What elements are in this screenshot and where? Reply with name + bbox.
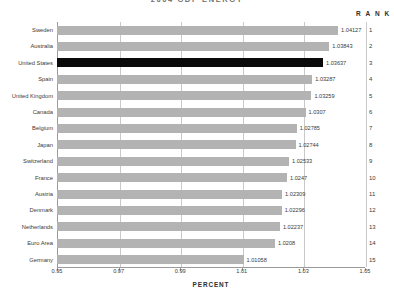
category-label: Canada bbox=[0, 104, 53, 120]
bar-value-label: 1.03259 bbox=[314, 88, 334, 104]
bar-row: Austria1.0230911 bbox=[0, 186, 394, 202]
bar-row: United Kingdom1.032595 bbox=[0, 88, 394, 104]
bar bbox=[57, 75, 312, 84]
x-axis-label: PERCENT bbox=[57, 281, 365, 288]
rank-value: 11 bbox=[369, 186, 393, 202]
category-label: Belgium bbox=[0, 120, 53, 136]
category-label: Euro Area bbox=[0, 235, 53, 251]
bar-row: United States1.036373 bbox=[0, 55, 394, 71]
bar bbox=[57, 173, 287, 182]
category-label: Japan bbox=[0, 137, 53, 153]
rank-value: 3 bbox=[369, 55, 393, 71]
bar-row: Australia1.038432 bbox=[0, 38, 394, 54]
category-label: Spain bbox=[0, 71, 53, 87]
bar-row: Netherlands1.0223713 bbox=[0, 219, 394, 235]
rank-value: 13 bbox=[369, 219, 393, 235]
x-tick-label: 0.99 bbox=[160, 268, 200, 274]
bar-row: Sweden1.041271 bbox=[0, 22, 394, 38]
x-tick-label: 1.05 bbox=[345, 268, 385, 274]
bar bbox=[57, 190, 282, 199]
bar-value-label: 1.03637 bbox=[326, 55, 346, 71]
category-label: Switzerland bbox=[0, 153, 53, 169]
bar-value-label: 1.03843 bbox=[332, 38, 352, 54]
category-label: France bbox=[0, 170, 53, 186]
category-label: Sweden bbox=[0, 22, 53, 38]
bar-row: Japan1.027448 bbox=[0, 137, 394, 153]
bar-row: Belgium1.027857 bbox=[0, 120, 394, 136]
bar-row: Germany1.0105815 bbox=[0, 252, 394, 268]
bar-value-label: 1.02296 bbox=[285, 202, 305, 218]
category-label: Denmark bbox=[0, 202, 53, 218]
bar bbox=[57, 255, 244, 264]
rank-value: 4 bbox=[369, 71, 393, 87]
bar-chart: 2004 GDP ENERGY R A N K Sweden1.041271Au… bbox=[0, 0, 394, 299]
rank-value: 2 bbox=[369, 38, 393, 54]
bar-value-label: 1.01058 bbox=[247, 252, 267, 268]
x-tick-label: 1.03 bbox=[283, 268, 323, 274]
bar-value-label: 1.03287 bbox=[315, 71, 335, 87]
bar-value-label: 1.02237 bbox=[283, 219, 303, 235]
rank-value: 8 bbox=[369, 137, 393, 153]
bar-row: France1.024710 bbox=[0, 170, 394, 186]
bar bbox=[57, 108, 306, 117]
bar bbox=[57, 239, 275, 248]
bar-row: Spain1.032874 bbox=[0, 71, 394, 87]
bar bbox=[57, 206, 282, 215]
bar-row: Euro Area1.020814 bbox=[0, 235, 394, 251]
bar-value-label: 1.0307 bbox=[309, 104, 326, 120]
bar-row: Denmark1.0229612 bbox=[0, 202, 394, 218]
rank-value: 7 bbox=[369, 120, 393, 136]
bar bbox=[57, 91, 311, 100]
bar-value-label: 1.0208 bbox=[278, 235, 295, 251]
category-label: Netherlands bbox=[0, 219, 53, 235]
x-tick-label: 0.95 bbox=[37, 268, 77, 274]
rank-value: 1 bbox=[369, 22, 393, 38]
category-label: United States bbox=[0, 55, 53, 71]
bar bbox=[57, 140, 296, 149]
rank-value: 12 bbox=[369, 202, 393, 218]
rank-value: 14 bbox=[369, 235, 393, 251]
rank-value: 6 bbox=[369, 104, 393, 120]
rank-value: 10 bbox=[369, 170, 393, 186]
x-tick-label: 0.97 bbox=[99, 268, 139, 274]
chart-title: 2004 GDP ENERGY bbox=[0, 0, 394, 4]
bar bbox=[57, 42, 329, 51]
bar-value-label: 1.02533 bbox=[292, 153, 312, 169]
rank-value: 15 bbox=[369, 252, 393, 268]
bar-value-label: 1.04127 bbox=[341, 22, 361, 38]
bar-value-label: 1.02785 bbox=[300, 120, 320, 136]
rank-value: 5 bbox=[369, 88, 393, 104]
bar-value-label: 1.02744 bbox=[299, 137, 319, 153]
bar-value-label: 1.0247 bbox=[290, 170, 307, 186]
rank-column-header: R A N K bbox=[356, 10, 394, 17]
bar bbox=[57, 157, 289, 166]
bar-row: Canada1.03076 bbox=[0, 104, 394, 120]
category-label: United Kingdom bbox=[0, 88, 53, 104]
bar-highlighted bbox=[57, 58, 323, 67]
category-label: Australia bbox=[0, 38, 53, 54]
category-label: Germany bbox=[0, 252, 53, 268]
bar-value-label: 1.02309 bbox=[285, 186, 305, 202]
rank-value: 9 bbox=[369, 153, 393, 169]
bar-row: Switzerland1.025339 bbox=[0, 153, 394, 169]
bar bbox=[57, 222, 280, 231]
x-tick-label: 1.01 bbox=[222, 268, 262, 274]
bar bbox=[57, 26, 338, 35]
category-label: Austria bbox=[0, 186, 53, 202]
bar bbox=[57, 124, 297, 133]
